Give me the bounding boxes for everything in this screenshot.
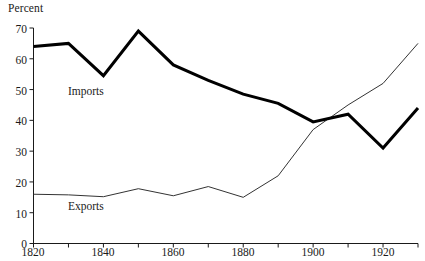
y-tick-label-30: 30: [3, 146, 27, 158]
y-tick-label-40: 40: [3, 115, 27, 127]
x-tick-label-1880: 1880: [221, 246, 265, 258]
y-tick-label-60: 60: [3, 54, 27, 66]
series-line-exports: [34, 43, 419, 197]
x-tick-label-1840: 1840: [81, 246, 125, 258]
series-annotation-exports: Exports: [68, 200, 104, 212]
x-tick-label-1920: 1920: [361, 246, 405, 258]
y-tick-label-10: 10: [3, 208, 27, 220]
y-tick-label-20: 20: [3, 177, 27, 189]
x-tick-label-1860: 1860: [151, 246, 195, 258]
y-axis-ticks: [30, 28, 34, 244]
y-tick-label-70: 70: [3, 23, 27, 35]
x-tick-label-1820: 1820: [11, 246, 55, 258]
plot-area: [0, 0, 425, 261]
line-chart: Percent 70 60 50 40 30 20 10 0 1820 1840…: [0, 0, 425, 261]
series-annotation-imports: Imports: [68, 85, 104, 97]
x-tick-label-1900: 1900: [291, 246, 335, 258]
y-tick-label-50: 50: [3, 85, 27, 97]
